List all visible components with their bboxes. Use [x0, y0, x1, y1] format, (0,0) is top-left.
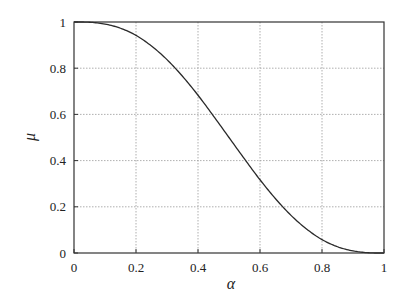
y-tick-label: 0.8	[50, 61, 66, 76]
x-tick-label: 0.6	[252, 260, 269, 275]
y-axis-label: μ	[21, 133, 39, 142]
x-axis-label: α	[227, 275, 236, 292]
y-tick-label: 0.2	[50, 199, 66, 214]
y-tick-label: 0	[60, 246, 67, 261]
x-tick-label: 0.2	[128, 260, 144, 275]
x-tick-label: 0	[71, 260, 78, 275]
y-tick-label: 0.6	[50, 107, 67, 122]
x-tick-label: 0.8	[314, 260, 330, 275]
chart: 00.20.40.60.81 00.20.40.60.81 α μ	[0, 0, 408, 303]
data-line	[74, 22, 384, 253]
y-tick-label: 1	[60, 15, 67, 30]
x-tick-label: 1	[381, 260, 388, 275]
x-tick-label: 0.4	[190, 260, 207, 275]
y-tick-label: 0.4	[50, 153, 67, 168]
